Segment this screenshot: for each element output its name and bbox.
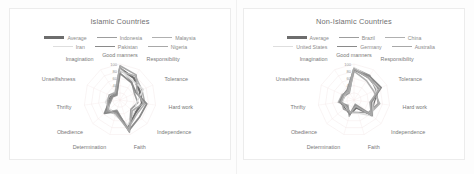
legend-label: Iran (76, 44, 85, 50)
legend-line-icon (337, 46, 357, 48)
chart-title: Islamic Countries (10, 17, 230, 26)
radar-chart: 406080100Good mannersResponsibilityToler… (244, 53, 464, 157)
radial-tick-label: 60 (346, 76, 351, 81)
legend-line-icon (273, 46, 293, 47)
legend: Average Indonesia Malaysia Iran (10, 33, 230, 51)
legend-item-united-states[interactable]: United States (273, 44, 327, 50)
legend-item-malaysia[interactable]: Malaysia (152, 35, 195, 41)
panel-divider (236, 0, 237, 174)
legend-row: United States Germany Australia (244, 42, 464, 51)
legend-line-icon (339, 37, 359, 39)
radial-tick-label: 100 (344, 62, 352, 67)
legend: Average Brazil China United States (244, 33, 464, 51)
axis-label: Independence (391, 129, 425, 135)
legend-label: China (408, 35, 422, 41)
legend-item-average[interactable]: Average (287, 35, 329, 41)
legend-line-icon (53, 46, 73, 47)
axis-label: Responsibility (146, 56, 180, 62)
axis-label: Thrifty (57, 104, 72, 110)
legend-label: Malaysia (175, 35, 195, 41)
legend-line-icon (95, 46, 115, 48)
axis-label: Good manners (336, 53, 372, 58)
legend-item-germany[interactable]: Germany (337, 44, 381, 50)
legend-item-australia[interactable]: Australia (392, 44, 435, 50)
legend-line-icon (392, 46, 412, 48)
radial-tick-label: 80 (346, 69, 351, 74)
legend-item-iran[interactable]: Iran (53, 44, 85, 50)
legend-item-indonesia[interactable]: Indonesia (97, 35, 143, 41)
axis-label: Obedience (291, 129, 317, 135)
legend-label: United States (296, 44, 327, 50)
legend-item-pakistan[interactable]: Pakistan (95, 44, 138, 50)
radar-plot-area: 406080100Good mannersResponsibilityToler… (10, 53, 230, 157)
legend-row: Average Brazil China (244, 33, 464, 42)
axis-label: Hard work (403, 104, 428, 110)
axis-label: Determination (307, 144, 341, 150)
radial-tick-label: 60 (112, 76, 117, 81)
radar-chart: 406080100Good mannersResponsibilityToler… (10, 53, 230, 157)
chart-panel-non-islamic: Non-Islamic Countries Average Brazil Chi… (243, 8, 465, 160)
legend-row: Average Indonesia Malaysia (10, 33, 230, 42)
legend-label: Australia (415, 44, 435, 50)
legend-item-brazil[interactable]: Brazil (339, 35, 375, 41)
axis-label: Independence (157, 129, 191, 135)
legend-line-icon (152, 37, 172, 39)
chart-panel-islamic: Islamic Countries Average Indonesia Mala… (9, 8, 231, 160)
radial-tick-label: 100 (110, 62, 118, 67)
radar-plot-area: 406080100Good mannersResponsibilityToler… (244, 53, 464, 157)
axis-label: Imagination (66, 56, 94, 62)
axis-label: Responsibility (380, 56, 414, 62)
radial-tick-label: 40 (346, 83, 351, 88)
axis-label: Obedience (57, 129, 83, 135)
legend-item-china[interactable]: China (385, 35, 422, 41)
legend-line-icon (97, 37, 117, 39)
legend-line-icon (148, 46, 168, 48)
axis-label: Faith (368, 144, 380, 150)
figure-canvas: Islamic Countries Average Indonesia Mala… (0, 0, 474, 174)
axis-label: Good manners (102, 53, 138, 58)
axis-label: Imagination (300, 56, 328, 62)
legend-line-icon (385, 37, 405, 39)
axis-label: Determination (73, 144, 107, 150)
axis-label: Hard work (169, 104, 194, 110)
axis-label: Tolerance (165, 76, 188, 82)
legend-label: Average (310, 35, 329, 41)
legend-label: Indonesia (120, 35, 143, 41)
legend-item-nigeria[interactable]: Nigeria (148, 44, 187, 50)
axis-label: Faith (134, 144, 146, 150)
chart-title: Non-Islamic Countries (244, 17, 464, 26)
axis-label: Tolerance (399, 76, 422, 82)
axis-label: Unselfishness (276, 76, 310, 82)
legend-item-average[interactable]: Average (44, 35, 86, 41)
radial-tick-label: 40 (112, 83, 117, 88)
legend-label: Germany (360, 44, 381, 50)
legend-line-icon (287, 36, 307, 38)
legend-label: Pakistan (118, 44, 138, 50)
radial-tick-label: 80 (112, 69, 117, 74)
axis-label: Unselfishness (42, 76, 76, 82)
legend-label: Brazil (362, 35, 375, 41)
legend-label: Nigeria (171, 44, 187, 50)
axis-label: Thrifty (291, 104, 306, 110)
legend-row: Iran Pakistan Nigeria (10, 42, 230, 51)
legend-label: Average (67, 35, 86, 41)
legend-line-icon (44, 36, 64, 38)
